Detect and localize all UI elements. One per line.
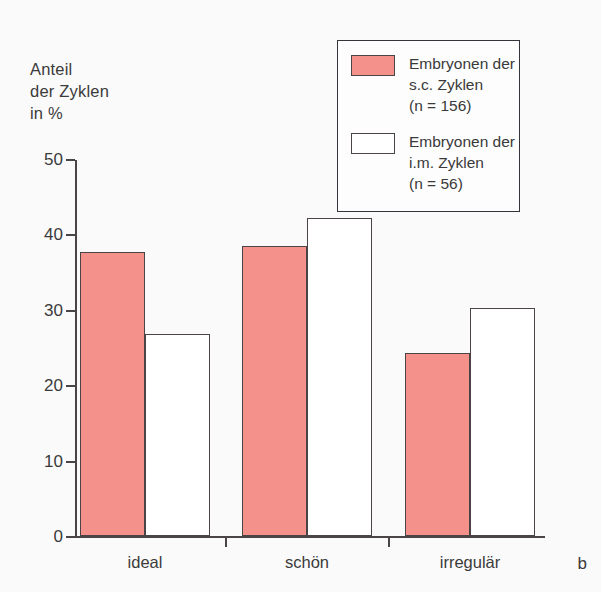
y-axis-title: Anteil der Zyklen in % [30,58,109,124]
bar-schön-im [307,218,372,536]
bar-irregulär-im [470,308,535,536]
y-tick-label: 20 [23,377,63,394]
bar-ideal-sc [80,252,145,536]
y-tick-mark [66,536,75,538]
y-tick-label: 50 [23,151,63,168]
y-tick-mark [66,159,75,161]
y-tick-label: 30 [23,302,63,319]
sc-swatch-icon [351,55,395,76]
y-tick-mark [66,310,75,312]
legend-entry-im: Embryonen der i.m. Zyklen (n = 56) [351,131,515,194]
y-tick-label: 40 [23,226,63,243]
x-group-separator [225,536,227,547]
plot-area: 01020304050 idealschönirregulär [75,155,545,542]
y-tick-mark [66,385,75,387]
bar-irregulär-sc [405,353,470,536]
x-axis-line [75,536,545,538]
chart-legend: Embryonen der s.c. Zyklen (n = 156) Embr… [337,40,520,212]
x-group-separator [388,536,390,547]
y-tick-label: 10 [23,453,63,470]
bar-ideal-im [145,334,210,536]
legend-label-sc: Embryonen der s.c. Zyklen (n = 156) [409,53,515,116]
bar-chart-figure: Anteil der Zyklen in % 01020304050 ideal… [0,0,601,592]
bar-schön-sc [242,246,307,536]
y-tick-mark [66,461,75,463]
y-tick-mark [66,234,75,236]
im-swatch-icon [351,133,395,154]
y-tick-label: 0 [23,528,63,545]
panel-letter: b [578,554,587,574]
x-category-label-schön: schön [285,553,329,572]
legend-label-im: Embryonen der i.m. Zyklen (n = 56) [409,131,515,194]
x-category-label-ideal: ideal [128,553,163,572]
y-axis-line [75,160,77,537]
x-category-label-irregulär: irregulär [440,553,501,572]
legend-entry-sc: Embryonen der s.c. Zyklen (n = 156) [351,53,515,116]
